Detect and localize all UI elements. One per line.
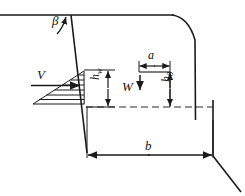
- beta-angle-label: β: [52, 13, 58, 29]
- hw-label-sub: w: [95, 68, 104, 74]
- h0-label-sub: 0: [166, 72, 175, 76]
- b-dimension-label: b: [145, 138, 152, 154]
- w-force-label: W: [122, 79, 133, 95]
- h0-label-base: h: [159, 76, 173, 82]
- v-force-label: V: [37, 67, 45, 83]
- crest-curve: [172, 15, 196, 120]
- downstream-face-slope: [213, 156, 241, 192]
- upstream-face-line: [71, 15, 87, 153]
- hw-dimension-label: hw: [88, 68, 104, 80]
- hw-label-base: h: [88, 74, 102, 80]
- dam-cross-section-diagram: [0, 0, 245, 196]
- h0-dimension-label: h0: [159, 72, 175, 82]
- a-dimension-label: a: [148, 48, 154, 63]
